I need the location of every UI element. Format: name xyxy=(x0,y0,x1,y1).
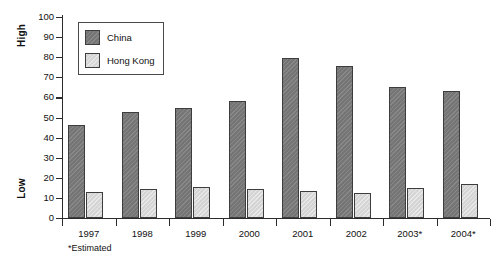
x-category-label-1998: 1998 xyxy=(132,228,153,239)
x-category-label-2002: 2002 xyxy=(346,228,367,239)
bar-china-2003-est xyxy=(389,87,406,218)
legend-label-hong-kong: Hong Kong xyxy=(107,55,155,66)
bar-hong-kong-1997 xyxy=(86,192,103,218)
bar-chart: High Low 0102030405060708090100 19971998… xyxy=(0,0,500,272)
chart-legend: China Hong Kong xyxy=(78,22,164,75)
chart-footnote: *Estimated xyxy=(68,243,112,253)
bar-hong-kong-2003-est xyxy=(407,188,424,218)
x-category-label-1999: 1999 xyxy=(185,228,206,239)
x-category-label-1997: 1997 xyxy=(78,228,99,239)
bar-hong-kong-2004-est xyxy=(461,184,478,218)
bar-china-2000 xyxy=(229,101,246,218)
legend-swatch-hongkong-icon xyxy=(85,53,100,68)
bar-china-1998 xyxy=(122,112,139,218)
legend-swatch-china-icon xyxy=(85,30,100,45)
legend-item-hong-kong: Hong Kong xyxy=(85,52,155,68)
bar-china-2001 xyxy=(282,58,299,218)
x-category-label-2001: 2001 xyxy=(292,228,313,239)
legend-label-china: China xyxy=(107,32,132,43)
bar-hong-kong-2002 xyxy=(354,193,371,218)
bar-hong-kong-1998 xyxy=(140,189,157,218)
x-category-label-2000: 2000 xyxy=(239,228,260,239)
x-category-label-2003-est: 2003* xyxy=(397,228,422,239)
bar-china-2002 xyxy=(336,66,353,218)
bar-china-1997 xyxy=(68,125,85,218)
bar-china-1999 xyxy=(175,108,192,218)
bar-hong-kong-2001 xyxy=(300,191,317,218)
legend-item-china: China xyxy=(85,29,132,45)
bar-china-2004-est xyxy=(443,91,460,218)
bar-hong-kong-2000 xyxy=(247,189,264,218)
x-category-label-2004-est: 2004* xyxy=(451,228,476,239)
bar-hong-kong-1999 xyxy=(193,187,210,218)
